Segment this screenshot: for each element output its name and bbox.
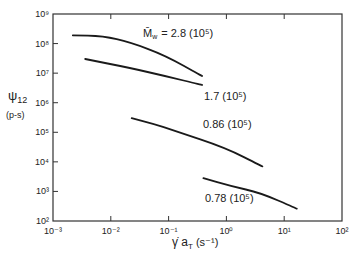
plot-frame bbox=[53, 14, 342, 221]
y-tick-label: 10⁴ bbox=[35, 157, 49, 167]
x-tick-label: 10⁰ bbox=[219, 226, 233, 236]
legend-mw-label: M̄w= 2.8 (10⁵) bbox=[143, 27, 213, 40]
y-tick-label: 10⁹ bbox=[35, 9, 49, 19]
y-tick-label: 10⁵ bbox=[35, 127, 49, 137]
y-tick-label: 10² bbox=[36, 216, 49, 226]
x-axis-label: γ̇ aT(s⁻¹) bbox=[172, 235, 218, 251]
tick-labels: 10⁻³10⁻²10⁻¹10⁰10¹10²10²10³10⁴10⁵10⁶10⁷1… bbox=[35, 9, 348, 236]
y-axis-units: (p-s) bbox=[6, 110, 25, 120]
series-label-0-78: 0.78 (10⁵) bbox=[205, 192, 254, 204]
y-tick-label: 10⁸ bbox=[35, 39, 49, 49]
data-lines bbox=[73, 35, 297, 208]
series-label-1-7: 1.7 (10⁵) bbox=[204, 90, 246, 102]
y-axis-label: ψ12 bbox=[8, 88, 27, 105]
x-tick-label: 10² bbox=[335, 226, 348, 236]
series-label-0-86: 0.86 (10⁵) bbox=[203, 118, 252, 130]
y-tick-label: 10⁶ bbox=[35, 98, 49, 108]
plot-border bbox=[53, 14, 342, 221]
chart: 10⁻³10⁻²10⁻¹10⁰10¹10²10²10³10⁴10⁵10⁶10⁷1… bbox=[0, 0, 355, 256]
x-tick-label: 10⁻³ bbox=[44, 226, 62, 236]
x-tick-label: 10⁻² bbox=[102, 226, 120, 236]
series-line bbox=[85, 59, 202, 85]
y-tick-label: 10³ bbox=[36, 186, 49, 196]
x-tick-label: 10¹ bbox=[278, 226, 291, 236]
y-tick-label: 10⁷ bbox=[36, 68, 49, 78]
